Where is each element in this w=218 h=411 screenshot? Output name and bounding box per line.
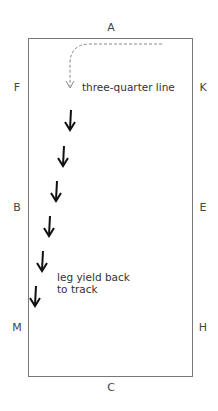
arrow-down-icon — [30, 286, 40, 306]
arrow-down-icon — [58, 146, 68, 166]
arrow-down-icon — [44, 216, 54, 236]
arrow-down-icon — [51, 181, 61, 201]
arrow-down-icon — [37, 251, 47, 271]
arrow-down-icon — [65, 110, 75, 130]
path-overlay — [0, 0, 218, 411]
dashed-turn-path — [70, 44, 162, 86]
